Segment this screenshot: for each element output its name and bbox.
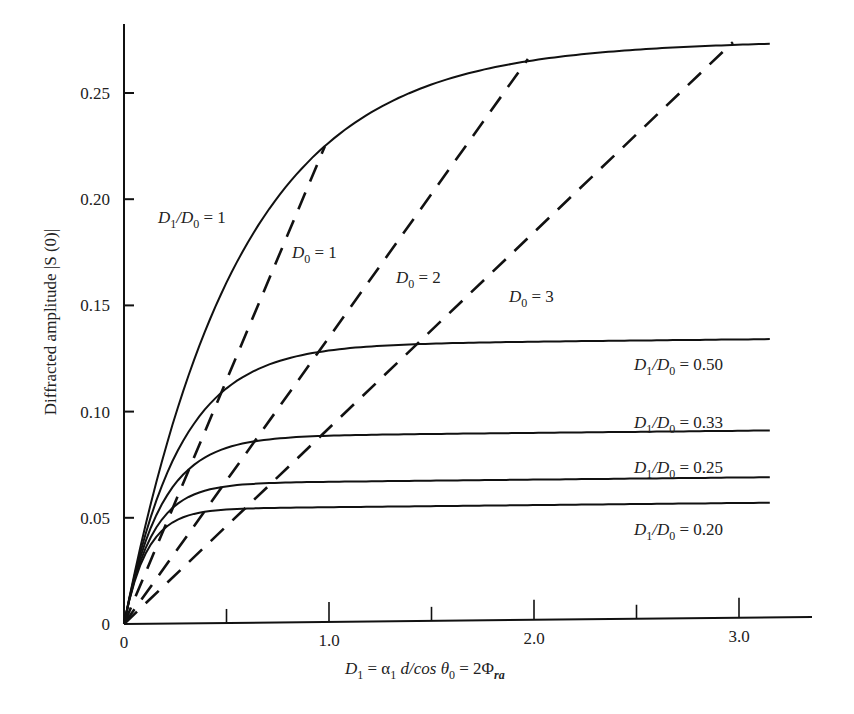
x-axis-title: D1 = α1 d/cos θ0 = 2Φra — [344, 659, 505, 682]
label-ratio-0-33: D1/D0 = 0.33 — [633, 413, 723, 436]
series-d1-d0-0-25 — [124, 477, 770, 624]
label-ratio-1: D1/D0 = 1 — [157, 208, 226, 231]
x-tick-label: 0 — [120, 633, 129, 652]
series-d1-d0-0-20 — [124, 503, 770, 624]
label-ratio-0-50: D1/D0 = 0.50 — [633, 355, 723, 378]
y-tick-label: 0.25 — [80, 84, 110, 103]
y-tick-label: 0 — [102, 615, 111, 634]
x-tick-label: 3.0 — [728, 627, 749, 646]
x-tick-label: 1.0 — [318, 631, 339, 650]
label-d0-1: D0 = 1 — [291, 243, 337, 266]
y-axis-title: Diffracted amplitude |S (0)| — [41, 229, 60, 415]
series-d1-d0-0-50 — [124, 339, 770, 624]
chart-canvas: 00.050.100.150.200.25 01.02.03.0 Diffrac… — [0, 0, 854, 714]
series-d1-d0-0-33 — [124, 431, 770, 625]
y-tick-label: 0.15 — [80, 296, 110, 315]
y-tick-label: 0.10 — [80, 403, 110, 422]
y-ticks: 00.050.100.150.200.25 — [80, 84, 134, 634]
y-tick-label: 0.05 — [80, 509, 110, 528]
y-tick-label: 0.20 — [80, 190, 110, 209]
x-tick-label: 2.0 — [523, 629, 544, 648]
label-d0-3: D0 = 3 — [508, 287, 554, 310]
label-ratio-0-20: D1/D0 = 0.20 — [633, 520, 723, 543]
x-ticks: 01.02.03.0 — [120, 598, 750, 652]
label-d0-2: D0 = 2 — [395, 268, 441, 291]
